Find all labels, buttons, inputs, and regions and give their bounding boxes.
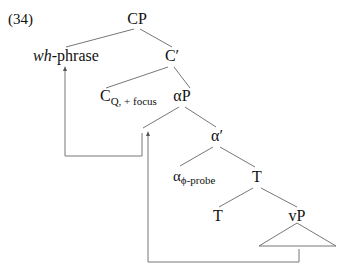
wh-rest: -phrase xyxy=(52,47,99,65)
edge-cbar-chead xyxy=(106,67,168,88)
edge-alphap-spec xyxy=(143,107,179,128)
node-alpha-head: αϕ-probe xyxy=(173,168,215,186)
c-head-label: C xyxy=(100,87,111,104)
edge-tbar-thead xyxy=(219,188,253,207)
node-c-head: CQ, + focus xyxy=(100,87,157,107)
node-cp: CP xyxy=(127,10,147,27)
node-alpha-p: αP xyxy=(173,87,190,104)
node-c-bar: C′ xyxy=(165,47,179,64)
arrowhead-up-icon xyxy=(63,66,67,71)
movement-arrow-wh xyxy=(65,70,142,156)
edge-alphap-alphabar xyxy=(185,107,216,127)
edge-alphabar-tbar xyxy=(220,147,255,167)
vp-triangle xyxy=(259,223,336,246)
movement-arrow-vp xyxy=(148,135,299,262)
node-vp: vP xyxy=(289,207,306,224)
edge-tbar-vp xyxy=(261,188,297,207)
c-head-subscript: Q, + focus xyxy=(111,95,157,107)
edge-cp-wh xyxy=(66,29,134,47)
syntax-tree: (34) CP wh-phrase C′ CQ, + focus αP α′ α… xyxy=(0,0,351,275)
alpha-head-subscript: ϕ-probe xyxy=(181,174,216,186)
node-t-bar: T xyxy=(252,168,262,185)
node-wh-phrase: wh-phrase xyxy=(33,47,99,65)
node-t-head: T xyxy=(213,207,223,224)
edge-alphabar-alphahead xyxy=(180,147,213,166)
edge-cp-cbar xyxy=(140,29,172,47)
arrowhead-up-icon xyxy=(146,131,150,136)
alpha-head-label: α xyxy=(173,168,181,184)
edge-cbar-alphap xyxy=(174,67,190,88)
wh-italic: wh xyxy=(33,47,52,64)
node-alpha-bar: α′ xyxy=(211,127,223,144)
example-number: (34) xyxy=(8,11,33,28)
